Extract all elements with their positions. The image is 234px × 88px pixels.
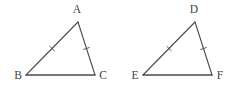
vertex-label-c: C xyxy=(99,69,107,81)
geometry-figure: ABCDEF xyxy=(0,0,234,88)
triangle-def: DEF xyxy=(131,3,223,81)
triangle-abc: ABC xyxy=(14,3,107,81)
triangles-diagram: ABCDEF xyxy=(0,0,234,88)
vertex-label-b: B xyxy=(14,69,22,81)
vertex-label-a: A xyxy=(73,3,82,15)
vertex-label-f: F xyxy=(217,69,223,81)
vertex-label-d: D xyxy=(190,3,198,15)
vertex-label-e: E xyxy=(131,69,138,81)
